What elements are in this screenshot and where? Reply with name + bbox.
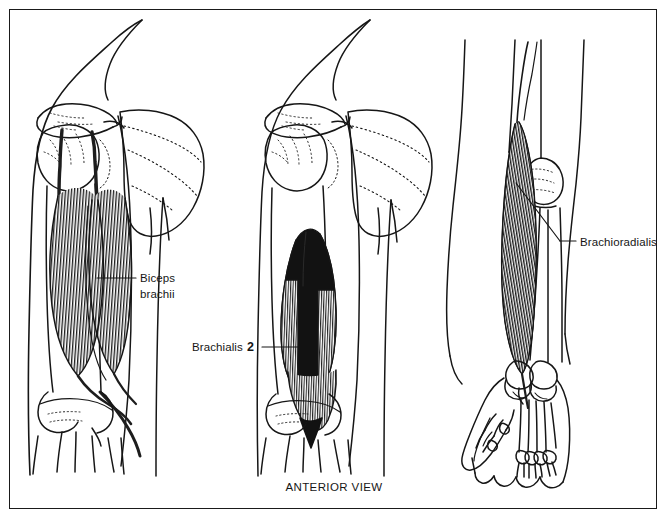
label-brachialis-number: 2 [247, 340, 254, 354]
label-biceps-brachii-line2: brachii [140, 288, 175, 300]
label-brachioradialis: Brachioradialis [580, 236, 657, 248]
label-brachialis: Brachialis [192, 341, 243, 353]
panel-brachialis [257, 20, 432, 476]
panel-biceps-brachii [28, 20, 204, 476]
label-biceps-brachii-line1: Biceps [140, 272, 175, 284]
anatomy-illustration [0, 0, 668, 521]
anatomy-figure-page: Biceps brachii Brachialis 2 Brachioradia… [0, 0, 668, 521]
panel-brachioradialis [447, 40, 584, 488]
figure-caption: ANTERIOR VIEW [0, 481, 668, 493]
